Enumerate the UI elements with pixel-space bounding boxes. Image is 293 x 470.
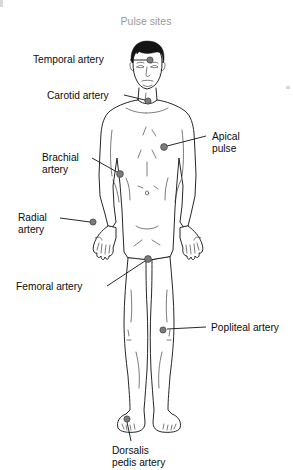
- pulse-sites-figure: Pulse sites: [0, 0, 293, 470]
- scan-edge-mark: [0, 0, 3, 7]
- label-temporal-artery: Temporal artery: [33, 54, 105, 65]
- label-dorsalis-pedis-artery-line2: pedis artery: [112, 457, 166, 468]
- left-hand: [93, 226, 116, 260]
- pulse-dot-radial-artery[interactable]: [90, 219, 96, 225]
- label-brachial-artery-line2: artery: [42, 164, 69, 175]
- label-radial-artery-line1: Radial: [18, 212, 47, 223]
- leader-line-radial-artery: [60, 218, 90, 222]
- label-brachial-artery: Brachial artery: [42, 152, 82, 175]
- leader-line-carotid-artery: [124, 95, 145, 100]
- pulse-dot-popliteal-artery[interactable]: [160, 327, 166, 333]
- left-leg: [117, 258, 147, 432]
- right-leg: [150, 257, 180, 432]
- pulse-dot-dorsalis-pedis-artery[interactable]: [124, 416, 130, 422]
- label-popliteal-artery: Popliteal artery: [211, 322, 280, 333]
- label-femoral-artery-line1: Femoral artery: [16, 281, 83, 292]
- label-carotid-artery: Carotid artery: [47, 90, 110, 101]
- scan-edge-mark: [286, 86, 290, 89]
- diagram-title: Pulse sites: [121, 15, 172, 27]
- callout-popliteal-artery[interactable]: Popliteal artery: [160, 322, 280, 333]
- label-radial-artery: Radial artery: [18, 212, 50, 235]
- pulse-dot-brachial-artery[interactable]: [117, 171, 124, 178]
- label-dorsalis-pedis-artery-line1: Dorsalis: [112, 445, 149, 456]
- label-femoral-artery: Femoral artery: [16, 281, 83, 292]
- label-apical-pulse: Apical pulse: [212, 131, 243, 154]
- pulse-dot-femoral-artery[interactable]: [145, 256, 152, 263]
- label-popliteal-artery-line1: Popliteal artery: [211, 322, 280, 333]
- callout-radial-artery[interactable]: Radial artery: [18, 212, 96, 235]
- anatomy-illustration: Pulse sites: [0, 0, 293, 470]
- pulse-dot-carotid-artery[interactable]: [145, 98, 151, 104]
- label-carotid-artery-line1: Carotid artery: [47, 90, 110, 101]
- label-temporal-artery-line1: Temporal artery: [33, 54, 105, 65]
- label-apical-pulse-line2: pulse: [212, 143, 237, 154]
- right-hand: [180, 226, 203, 260]
- pulse-dot-temporal-artery[interactable]: [147, 57, 153, 63]
- label-apical-pulse-line1: Apical: [212, 131, 240, 142]
- pulse-dot-apical-pulse[interactable]: [161, 144, 168, 151]
- label-brachial-artery-line1: Brachial: [42, 152, 79, 163]
- label-radial-artery-line2: artery: [18, 224, 45, 235]
- neck-right: [156, 88, 157, 100]
- label-dorsalis-pedis-artery: Dorsalis pedis artery: [112, 445, 166, 468]
